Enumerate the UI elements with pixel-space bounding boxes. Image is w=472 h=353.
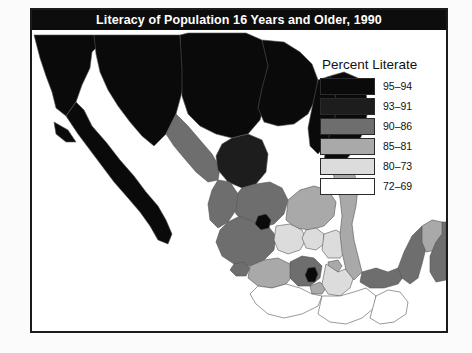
legend-label: 80–73 [383, 161, 412, 172]
region-queretaro[interactable] [302, 228, 324, 250]
legend-title: Percent Literate [322, 58, 417, 73]
map-legend: Percent Literate 95–94 93–91 90–86 85–81… [320, 58, 417, 197]
page-title: Literacy of Population 16 Years and Olde… [96, 14, 382, 27]
legend-swatch [320, 78, 375, 95]
region-baja-california[interactable] [34, 35, 102, 116]
map-frame: Literacy of Population 16 Years and Olde… [30, 8, 448, 333]
legend-label: 90–86 [383, 121, 412, 132]
legend-label: 72–69 [383, 181, 412, 192]
region-oaxaca[interactable] [318, 288, 376, 324]
legend-label: 93–91 [383, 101, 412, 112]
legend-label: 95–94 [383, 81, 412, 92]
legend-item[interactable]: 90–86 [320, 117, 417, 136]
legend-item[interactable]: 72–69 [320, 177, 417, 196]
legend-item[interactable]: 80–73 [320, 157, 417, 176]
legend-swatch [320, 158, 375, 175]
map-title-band: Literacy of Population 16 Years and Olde… [32, 10, 446, 30]
region-chiapas[interactable] [370, 290, 408, 324]
legend-label: 85–81 [383, 141, 412, 152]
legend-swatch [320, 138, 375, 155]
legend-item[interactable]: 95–94 [320, 77, 417, 96]
region-mexico-state[interactable] [290, 256, 322, 286]
legend-swatch [320, 178, 375, 195]
region-coahuila[interactable] [258, 40, 318, 126]
region-chihuahua[interactable] [180, 33, 270, 138]
legend-item[interactable]: 85–81 [320, 137, 417, 156]
map-figure: Literacy of Population 16 Years and Olde… [0, 0, 472, 353]
legend-swatch [320, 98, 375, 115]
legend-swatch [320, 118, 375, 135]
region-durango[interactable] [216, 134, 268, 188]
region-tabasco[interactable] [360, 268, 404, 288]
legend-item[interactable]: 93–91 [320, 97, 417, 116]
